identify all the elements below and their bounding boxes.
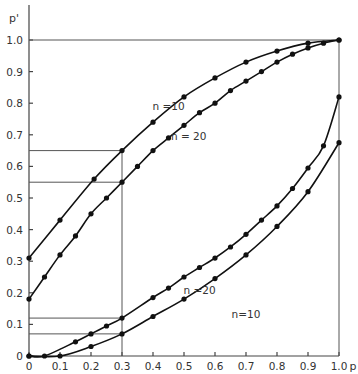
x-tick-label: 0.9	[300, 360, 317, 372]
data-point	[166, 285, 171, 290]
data-point	[228, 88, 233, 93]
curves	[29, 40, 339, 357]
data-point	[26, 353, 31, 358]
data-point	[336, 94, 341, 99]
data-point	[181, 297, 186, 302]
data-point	[150, 295, 155, 300]
data-point	[305, 45, 310, 50]
y-tick-label: 0	[16, 350, 23, 362]
data-point	[197, 265, 202, 270]
curve-label: n=10	[232, 308, 261, 320]
x-tick-label: 0.5	[176, 360, 193, 372]
data-point	[181, 123, 186, 128]
data-point	[42, 274, 47, 279]
data-point	[57, 353, 62, 358]
x-tick-label: 0.2	[83, 360, 100, 372]
data-point	[73, 339, 78, 344]
y-tick-label: 0.7	[6, 129, 23, 141]
data-point	[336, 140, 341, 145]
series-line-2	[29, 40, 339, 299]
data-point	[212, 101, 217, 106]
data-point	[88, 344, 93, 349]
data-point	[228, 244, 233, 249]
data-point	[26, 297, 31, 302]
data-point	[212, 255, 217, 260]
data-point	[88, 211, 93, 216]
data-point	[274, 48, 279, 53]
chart: 00.10.20.30.40.50.60.70.80.91.0p00.10.20…	[0, 0, 358, 374]
data-point	[243, 232, 248, 237]
data-point	[150, 148, 155, 153]
data-point	[119, 315, 124, 320]
data-point	[135, 164, 140, 169]
data-point	[290, 52, 295, 57]
data-point	[119, 180, 124, 185]
data-point	[104, 323, 109, 328]
curve-label: n =10	[152, 100, 184, 112]
y-tick-label: 0.9	[6, 66, 23, 78]
y-tick-label: 0.2	[6, 287, 23, 299]
y-tick-label: 0.3	[6, 255, 23, 267]
data-point	[321, 41, 326, 46]
data-point	[212, 276, 217, 281]
data-point	[26, 255, 31, 260]
curve-label: n = 20	[171, 130, 207, 142]
y-tick-label: 0.4	[6, 224, 23, 236]
data-point	[336, 37, 341, 42]
data-point	[104, 195, 109, 200]
x-tick-label: 0.7	[238, 360, 255, 372]
data-point	[243, 60, 248, 65]
data-point	[290, 186, 295, 191]
data-point	[57, 218, 62, 223]
data-point	[259, 69, 264, 74]
data-point	[150, 314, 155, 319]
data-point	[305, 189, 310, 194]
data-point	[42, 353, 47, 358]
points	[26, 37, 341, 358]
series-line-4	[29, 143, 339, 357]
y-tick-label: 0.1	[6, 318, 23, 330]
data-point	[243, 78, 248, 83]
data-point	[92, 176, 97, 181]
reference-lines	[29, 40, 339, 356]
data-point	[274, 60, 279, 65]
y-tick-label: 1.0	[6, 34, 23, 46]
data-point	[88, 331, 93, 336]
x-tick-label: 0.1	[52, 360, 69, 372]
x-tick-label: 1.0	[331, 360, 348, 372]
x-tick-label: 0.6	[207, 360, 224, 372]
y-tick-label: 0.8	[6, 97, 23, 109]
x-axis-title: p	[350, 360, 357, 373]
data-point	[181, 274, 186, 279]
series-line-1	[29, 40, 339, 258]
data-point	[197, 110, 202, 115]
data-point	[212, 75, 217, 80]
x-tick-label: 0.8	[269, 360, 286, 372]
y-tick-label: 0.5	[6, 192, 23, 204]
y-axis-title: p'	[9, 12, 19, 25]
curve-label: n =20	[183, 284, 215, 296]
data-point	[57, 252, 62, 257]
data-point	[73, 233, 78, 238]
x-tick-label: 0.3	[114, 360, 131, 372]
data-point	[119, 148, 124, 153]
data-point	[321, 143, 326, 148]
data-point	[305, 165, 310, 170]
data-point	[274, 224, 279, 229]
data-point	[243, 252, 248, 257]
data-point	[119, 331, 124, 336]
y-tick-label: 0.6	[6, 160, 23, 172]
x-tick-label: 0	[26, 360, 33, 372]
data-point	[259, 218, 264, 223]
x-tick-label: 0.4	[145, 360, 162, 372]
data-point	[150, 120, 155, 125]
data-point	[274, 203, 279, 208]
data-point	[305, 41, 310, 46]
